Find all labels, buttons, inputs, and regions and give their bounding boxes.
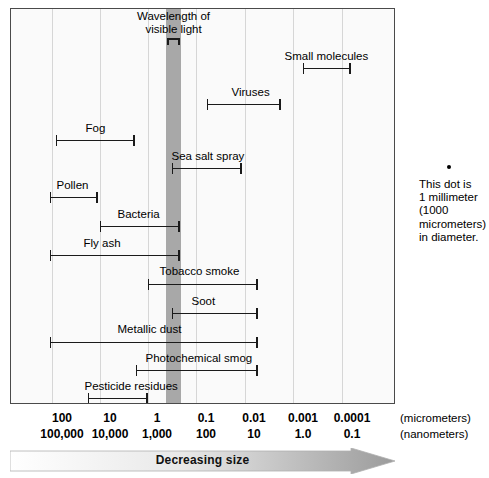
range-bar-soot bbox=[172, 308, 258, 319]
range-cap-right bbox=[240, 163, 242, 174]
range-cap-left bbox=[207, 99, 209, 110]
visible-light-title: Wavelength of visible light bbox=[114, 10, 234, 36]
tick-nanometers-1: 10,000 bbox=[92, 427, 129, 441]
range-cap-right bbox=[178, 250, 180, 261]
one-millimeter-dot bbox=[447, 165, 451, 169]
range-bar-photochemical-smog bbox=[136, 365, 258, 376]
bracket-cap-left bbox=[167, 38, 169, 45]
note-line-3: (1000 bbox=[419, 204, 487, 217]
range-cap-left bbox=[148, 279, 150, 290]
note-line-5: in diameter. bbox=[419, 231, 487, 244]
range-cap-left bbox=[56, 135, 58, 146]
range-label-pesticide-residues: Pesticide residues bbox=[85, 380, 178, 392]
range-label-fog: Fog bbox=[86, 122, 106, 134]
range-bar-pollen bbox=[50, 192, 98, 203]
range-stem bbox=[50, 197, 98, 199]
range-label-bacteria: Bacteria bbox=[118, 208, 160, 220]
range-stem bbox=[50, 255, 180, 257]
range-label-metallic-dust: Metallic dust bbox=[118, 323, 182, 335]
tick-micrometers-1: 10 bbox=[103, 411, 116, 425]
unit-label-micrometers: (micrometers) bbox=[400, 411, 471, 425]
tick-nanometers-2: 1,000 bbox=[142, 427, 172, 441]
note-line-2: 1 millimeter bbox=[419, 191, 487, 204]
range-stem bbox=[88, 398, 148, 400]
visible-light-title-line1: Wavelength of bbox=[114, 10, 234, 23]
range-stem bbox=[172, 168, 242, 170]
range-label-tobacco-smoke: Tobacco smoke bbox=[160, 265, 240, 277]
range-stem bbox=[148, 284, 258, 286]
range-cap-right bbox=[256, 365, 258, 376]
bracket-cap-right bbox=[178, 38, 180, 45]
range-cap-left bbox=[100, 221, 102, 232]
range-label-photochemical-smog: Photochemical smog bbox=[146, 352, 253, 364]
range-stem bbox=[136, 370, 258, 372]
range-stem bbox=[56, 140, 135, 142]
tick-nanometers-5: 1.0 bbox=[295, 427, 312, 441]
range-cap-right bbox=[133, 135, 135, 146]
range-stem bbox=[207, 104, 281, 106]
range-stem bbox=[100, 226, 180, 228]
range-label-pollen: Pollen bbox=[57, 179, 89, 191]
tick-micrometers-4: 0.01 bbox=[242, 411, 265, 425]
decreasing-size-arrow: Decreasing size bbox=[10, 448, 395, 474]
range-stem bbox=[303, 68, 351, 70]
range-bar-small-molecules bbox=[303, 63, 351, 74]
range-label-viruses: Viruses bbox=[232, 86, 270, 98]
range-cap-right bbox=[96, 192, 98, 203]
range-cap-left bbox=[88, 393, 90, 404]
unit-label-nanometers: (nanometers) bbox=[400, 427, 468, 441]
tick-nanometers-0: 100,000 bbox=[40, 427, 83, 441]
range-cap-left bbox=[172, 308, 174, 319]
range-cap-left bbox=[50, 337, 52, 348]
range-bar-fog bbox=[56, 135, 135, 146]
range-cap-right bbox=[256, 308, 258, 319]
range-cap-right bbox=[349, 63, 351, 74]
range-cap-left bbox=[50, 250, 52, 261]
range-bar-bacteria bbox=[100, 221, 180, 232]
range-cap-right bbox=[178, 221, 180, 232]
visible-light-title-line2: visible light bbox=[114, 23, 234, 36]
range-bar-tobacco-smoke bbox=[148, 279, 258, 290]
tick-micrometers-0: 100 bbox=[52, 411, 72, 425]
range-bar-sea-salt-spray bbox=[172, 163, 242, 174]
range-bar-pesticide-residues bbox=[88, 393, 148, 404]
range-cap-left bbox=[50, 192, 52, 203]
range-bar-viruses bbox=[207, 99, 281, 110]
tick-micrometers-5: 0.001 bbox=[288, 411, 318, 425]
range-label-sea-salt-spray: Sea salt spray bbox=[172, 150, 245, 162]
range-label-fly-ash: Fly ash bbox=[84, 237, 121, 249]
plot-area: Small moleculesVirusesFogSea salt sprayP… bbox=[10, 8, 395, 404]
tick-micrometers-6: 0.0001 bbox=[334, 411, 371, 425]
dot-scale-note: This dot is 1 millimeter (1000 micromete… bbox=[419, 178, 487, 244]
range-cap-right bbox=[146, 393, 148, 404]
range-cap-left bbox=[136, 365, 138, 376]
range-label-soot: Soot bbox=[192, 295, 216, 307]
tick-nanometers-6: 0.1 bbox=[344, 427, 361, 441]
note-line-4: micrometers) bbox=[419, 218, 487, 231]
arrow-label: Decreasing size bbox=[10, 453, 395, 467]
range-label-small-molecules: Small molecules bbox=[285, 50, 369, 62]
gridline-5 bbox=[293, 9, 294, 403]
range-bar-metallic-dust bbox=[50, 337, 258, 348]
range-cap-right bbox=[256, 279, 258, 290]
particle-size-diagram: Small moleculesVirusesFogSea salt sprayP… bbox=[0, 0, 489, 478]
range-stem bbox=[172, 313, 258, 315]
tick-micrometers-2: 1 bbox=[154, 411, 161, 425]
range-cap-right bbox=[279, 99, 281, 110]
range-cap-left bbox=[303, 63, 305, 74]
note-line-1: This dot is bbox=[419, 178, 487, 191]
range-bar-fly-ash bbox=[50, 250, 180, 261]
range-cap-left bbox=[172, 163, 174, 174]
tick-nanometers-4: 10 bbox=[247, 427, 260, 441]
visible-light-bracket bbox=[167, 38, 180, 45]
range-stem bbox=[50, 342, 258, 344]
range-cap-right bbox=[256, 337, 258, 348]
tick-nanometers-3: 100 bbox=[196, 427, 216, 441]
tick-micrometers-3: 0.1 bbox=[198, 411, 215, 425]
